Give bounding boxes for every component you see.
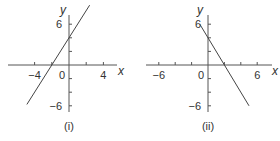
x-axis-title: x [117,64,125,78]
chart-caption: (ii) [202,120,214,132]
y-axis-title: y [196,3,204,17]
chart-ii: −6066−6yx(ii) [146,3,279,132]
y-tick-label: −6 [49,100,62,112]
x-tick-label: −6 [153,69,166,81]
y-tick-label: 6 [56,18,62,30]
x-tick-label: 0 [59,69,65,81]
x-axis-title: x [271,64,279,78]
figure: −4046−6yx(i) −6066−6yx(ii) [0,0,280,141]
x-tick-label: 4 [100,69,106,81]
x-tick-label: −4 [28,69,41,81]
y-axis-title: y [59,3,67,17]
chart-i: −4046−6yx(i) [8,3,125,132]
x-tick-label: 6 [254,69,260,81]
y-tick-label: −6 [188,100,201,112]
chart-caption: (i) [64,120,74,132]
x-tick-label: 0 [198,69,204,81]
